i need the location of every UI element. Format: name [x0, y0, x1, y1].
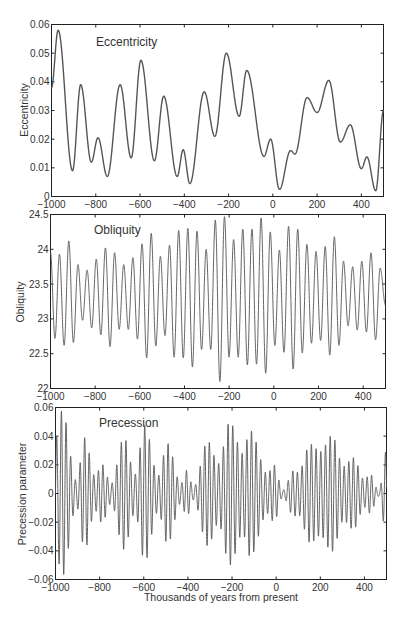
x-tick-label: 400 [353, 199, 370, 210]
y-tick-label: 0.06 [34, 402, 54, 413]
y-tick-label: 23.5 [29, 279, 49, 290]
obliquity-curve [51, 217, 386, 382]
x-axis-label: Thousands of years from present [144, 591, 298, 603]
y-tick-label: −0.02 [28, 517, 54, 528]
y-tick-label: 0.04 [30, 76, 50, 87]
x-tick-label: −400 [173, 199, 196, 210]
y-tick-label: −0.06 [28, 574, 54, 585]
y-tick-label: 24.5 [29, 209, 49, 220]
y-tick-label: 22.5 [29, 348, 49, 359]
y-tick-label: 0 [44, 191, 50, 202]
y-tick-label: 0.03 [30, 105, 50, 116]
eccentricity-panel: −1000−800−600−400−200020040000.010.020.0… [18, 19, 384, 210]
y-tick-label: 0.02 [30, 134, 50, 145]
eccentricity-curve [52, 30, 384, 191]
y-tick-label: 0.04 [34, 431, 54, 442]
x-tick-label: −600 [129, 199, 152, 210]
precession-curve [56, 411, 387, 574]
x-tick-label: 200 [312, 582, 329, 593]
obliquity-y-axis-label: Obliquity [14, 281, 26, 323]
y-tick-label: 24 [37, 244, 49, 255]
x-tick-label: −1000 [37, 199, 66, 210]
y-tick-label: −0.04 [28, 545, 54, 556]
x-tick-label: −200 [217, 199, 240, 210]
obliquity-panel: −1000−800−600−400−20002004002222.52323.5… [14, 209, 386, 402]
eccentricity-y-axis-label: Eccentricity [18, 82, 30, 136]
x-tick-label: 400 [356, 582, 373, 593]
x-tick-label: 200 [309, 199, 326, 210]
obliquity-title: Obliquity [94, 223, 141, 237]
x-tick-label: 200 [310, 391, 327, 402]
x-tick-label: −600 [129, 391, 152, 402]
eccentricity-ticks: −1000−800−600−400−200020040000.010.020.0… [30, 19, 383, 210]
precession-y-axis-label: Precession parameter [16, 442, 28, 545]
y-tick-label: 0 [48, 488, 54, 499]
precession-plot-frame [56, 408, 387, 580]
x-tick-label: 400 [355, 391, 372, 402]
milankovitch-figure: −1000−800−600−400−200020040000.010.020.0… [0, 0, 407, 619]
precession-title: Precession [99, 416, 158, 430]
x-tick-label: 0 [271, 391, 277, 402]
x-tick-label: −800 [88, 582, 111, 593]
precession-ticks: −1000−800−600−400−2000200400−0.06−0.04−0… [28, 402, 386, 593]
precession-panel: −1000−800−600−400−2000200400−0.06−0.04−0… [16, 402, 387, 603]
x-tick-label: 0 [270, 199, 276, 210]
y-tick-label: 0.06 [30, 19, 50, 30]
y-tick-label: 22 [37, 383, 49, 394]
x-tick-label: −400 [173, 391, 196, 402]
x-tick-label: −200 [218, 391, 241, 402]
x-tick-label: −800 [84, 391, 107, 402]
y-tick-label: 0.05 [30, 48, 50, 59]
y-tick-label: 23 [37, 313, 49, 324]
eccentricity-plot-frame [52, 25, 384, 197]
x-tick-label: −800 [85, 199, 108, 210]
y-tick-label: 0.02 [34, 459, 54, 470]
eccentricity-title: Eccentricity [96, 35, 157, 49]
y-tick-label: 0.01 [30, 162, 50, 173]
figure-caption-fragment [0, 612, 407, 619]
